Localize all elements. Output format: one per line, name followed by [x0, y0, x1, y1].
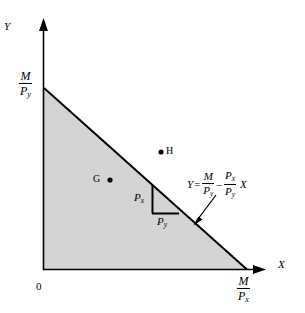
slope-rise-label: Px: [134, 192, 144, 205]
chart-canvas: [0, 0, 305, 313]
budget-constraint-figure: Y X 0 M Py M Px G H Px Py Y = M Py – Px …: [0, 0, 305, 313]
point-h-label: H: [166, 146, 173, 156]
y-intercept-numerator: M: [19, 70, 32, 83]
point-h-marker: [158, 149, 163, 154]
equation-term-one-denominator: Py: [202, 184, 214, 198]
budget-line-equation: Y = M Py – Px Py X: [187, 170, 247, 198]
equation-term-two-numerator: Px: [224, 170, 236, 184]
x-axis-label: X: [278, 259, 285, 270]
equation-variable: X: [237, 179, 247, 190]
point-g-label: G: [93, 174, 100, 184]
y-intercept-label: M Py: [19, 70, 32, 99]
point-g-marker: [107, 177, 112, 182]
x-intercept-numerator: M: [237, 275, 250, 288]
x-intercept-label: M Px: [237, 275, 250, 304]
equation-term-two-denominator: Py: [224, 185, 236, 199]
slope-run-label: Py: [157, 216, 167, 229]
y-intercept-denominator: Py: [19, 84, 32, 99]
equation-term-two: Px Py: [224, 170, 236, 198]
equation-term-one: M Py: [202, 171, 214, 198]
equation-pointer-arrow: [194, 195, 217, 226]
equation-equals: =: [193, 179, 201, 190]
equation-minus: –: [215, 179, 223, 190]
x-intercept-denominator: Px: [237, 289, 250, 304]
equation-term-one-numerator: M: [202, 171, 214, 183]
y-axis-label: Y: [4, 21, 10, 32]
origin-label: 0: [36, 281, 42, 292]
